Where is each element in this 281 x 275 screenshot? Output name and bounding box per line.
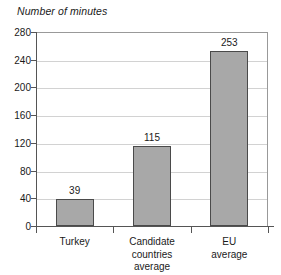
y-axis-tick-label: 0 — [3, 221, 31, 232]
y-axis-labels: 04080120160200240280 — [0, 0, 31, 275]
y-axis-tick-mark — [31, 171, 37, 172]
x-axis-baseline — [31, 226, 274, 227]
x-axis-tick-mark — [113, 227, 114, 233]
bar-value-label: 115 — [144, 132, 160, 143]
x-axis-tick-mark — [36, 227, 37, 233]
y-axis-tick-label: 200 — [3, 82, 31, 93]
x-axis-category-label: EU average — [203, 236, 255, 261]
y-axis-tick-mark — [31, 198, 37, 199]
x-axis-category-label: Turkey — [60, 236, 90, 249]
bar — [133, 146, 171, 226]
y-axis-tick-label: 280 — [3, 27, 31, 38]
bar-chart: Number of minutes 04080120160200240280 3… — [0, 0, 281, 275]
x-axis-tick-mark — [268, 227, 269, 233]
bar — [210, 51, 248, 226]
x-axis-tick-mark — [191, 227, 192, 233]
y-axis-tick-mark — [31, 32, 37, 33]
bar — [56, 199, 94, 226]
y-axis-tick-label: 80 — [3, 165, 31, 176]
y-axis-tick-mark — [31, 143, 37, 144]
y-axis-tick-mark — [31, 87, 37, 88]
bar-value-label: 39 — [69, 185, 80, 196]
y-axis-tick-mark — [31, 115, 37, 116]
y-axis-tick-label: 120 — [3, 137, 31, 148]
y-axis-tick-label: 160 — [3, 110, 31, 121]
x-axis-category-label: Candidate countries average — [129, 236, 175, 274]
bar-value-label: 253 — [221, 37, 238, 48]
y-axis-tick-mark — [31, 60, 37, 61]
y-axis-tick-label: 240 — [3, 54, 31, 65]
y-axis-tick-label: 40 — [3, 193, 31, 204]
